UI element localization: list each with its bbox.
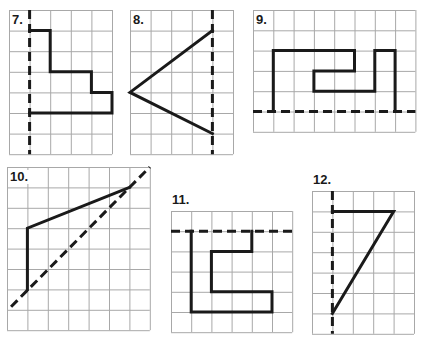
figure-outline: [332, 211, 393, 313]
exercise-7: 7.: [9, 10, 113, 155]
exercise-number: 12.: [312, 173, 332, 187]
figure-outline: [130, 31, 212, 134]
grid-figure: [253, 10, 416, 133]
exercise-8: 8.: [130, 10, 234, 155]
exercise-12: 12.: [312, 191, 415, 335]
exercise-number: 9.: [255, 13, 268, 27]
exercise-number: 10.: [9, 170, 29, 184]
grid-figure: [171, 211, 293, 333]
grid-figure: [7, 167, 151, 331]
grid-figure: [9, 10, 113, 155]
exercise-number: 8.: [132, 13, 145, 27]
exercise-11: 11.: [171, 211, 293, 333]
exercise-9: 9.: [253, 10, 416, 133]
grid-figure: [130, 10, 234, 155]
grid-figure: [312, 191, 415, 335]
exercise-number: 7.: [11, 13, 24, 27]
exercise-number: 11.: [171, 193, 190, 207]
exercise-10: 10.: [7, 167, 151, 331]
